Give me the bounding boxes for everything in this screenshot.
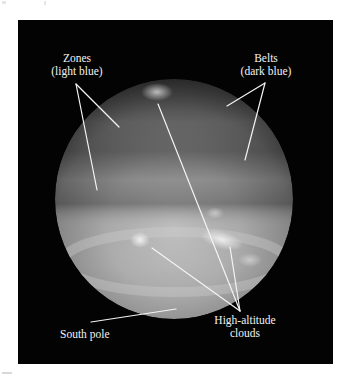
page-edge-mark	[2, 372, 12, 374]
belts-leader-line-1	[227, 83, 265, 106]
clouds-label-line2: clouds	[206, 327, 284, 340]
belts-label-subtitle: (dark blue)	[230, 65, 302, 78]
belts-label-title: Belts	[230, 52, 302, 65]
zones-label: Zones (light blue)	[42, 52, 112, 78]
cloud-spot-edge	[238, 253, 262, 267]
cloud-spot-top	[141, 83, 173, 101]
zones-label-subtitle: (light blue)	[42, 65, 112, 78]
south-pole-label-text: South pole	[60, 328, 116, 341]
high-altitude-clouds-label: High-altitude clouds	[206, 314, 284, 340]
south-pole-label: South pole	[60, 328, 116, 341]
cloud-spot-left	[130, 232, 150, 248]
zones-label-title: Zones	[42, 52, 112, 65]
clouds-label-line1: High-altitude	[206, 314, 284, 327]
belts-label: Belts (dark blue)	[230, 52, 302, 78]
cloud-spot-faint	[206, 207, 224, 219]
